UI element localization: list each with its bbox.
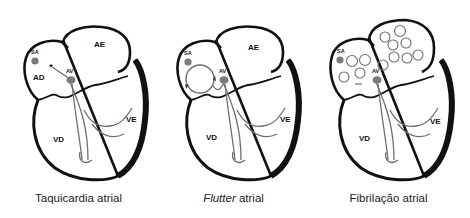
label-ae: AE <box>248 43 260 52</box>
caption-text: atrial <box>236 192 264 204</box>
label-ve: VE <box>430 117 441 126</box>
label-av: AV <box>66 68 74 74</box>
heart-diagram-taquicardia: * SA AV AD AE VD VE <box>0 0 157 190</box>
label-ae: AE <box>94 40 106 49</box>
reentry-circuit-icon <box>186 65 214 93</box>
ectopic-focus-icon: * <box>49 62 53 72</box>
panel-flutter-atrial: SA AV AE VD VE Flutter atrial <box>155 0 312 218</box>
caption-text: Taquicardia atrial <box>35 192 122 204</box>
wavelets-right-atrium-icon <box>339 55 371 83</box>
label-ad: AD <box>33 73 45 82</box>
sa-node-icon <box>31 57 38 64</box>
av-node-icon <box>373 76 382 84</box>
caption-fibrilacao-atrial: Fibrilação atrial <box>310 192 467 204</box>
label-sa: SA <box>184 50 192 56</box>
label-av: AV <box>219 68 227 74</box>
label-sa: SA <box>31 49 39 55</box>
label-vd: VD <box>359 134 370 143</box>
caption-text: Fibrilação atrial <box>350 192 428 204</box>
av-node-icon <box>220 76 229 84</box>
av-node-icon <box>67 76 76 84</box>
sa-node-icon <box>184 58 191 65</box>
caption-italic: Flutter <box>203 192 236 204</box>
label-vd: VD <box>206 133 217 142</box>
panel-fibrilacao-atrial: SA AV VD VE Fibrilação atrial <box>310 0 467 218</box>
label-ve: VE <box>280 115 291 124</box>
wavelets-left-atrium-icon <box>378 26 423 71</box>
sa-node-icon <box>336 56 343 63</box>
label-ve: VE <box>126 115 137 124</box>
heart-diagram-fibrilacao: SA AV VD VE <box>310 0 467 190</box>
label-sa: SA <box>337 48 345 54</box>
heart-diagram-flutter: SA AV AE VD VE <box>155 0 312 190</box>
label-vd: VD <box>53 135 64 144</box>
caption-flutter-atrial: Flutter atrial <box>155 192 312 204</box>
caption-taquicardia-atrial: Taquicardia atrial <box>0 192 157 204</box>
label-av: AV <box>372 68 380 74</box>
panel-taquicardia-atrial: * SA AV AD AE VD VE Taquicardia atrial <box>0 0 157 218</box>
